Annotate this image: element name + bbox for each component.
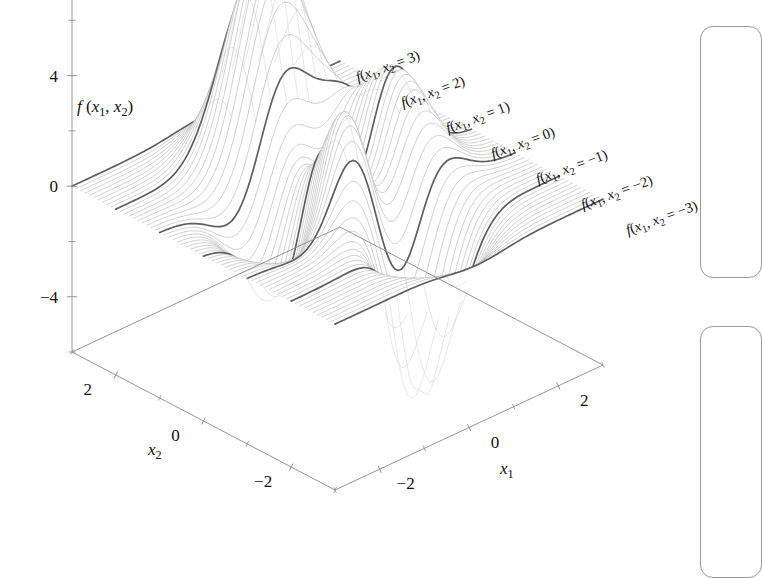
z-tick-label: −4 bbox=[40, 288, 59, 307]
right-panel-upper bbox=[700, 26, 762, 278]
z-axis-title: f (x1, x2) bbox=[77, 97, 133, 119]
z-tick-label: 4 bbox=[50, 67, 59, 86]
x2-tick-label: 2 bbox=[84, 380, 93, 399]
x1-axis-title: x1 bbox=[499, 459, 514, 481]
x2-axis-title: x2 bbox=[147, 440, 162, 462]
x1-tick-label: 2 bbox=[580, 391, 589, 410]
curve-label: f(x1, x2 = −3) bbox=[624, 197, 701, 240]
right-panel-lower bbox=[700, 326, 762, 578]
x1-tick-label: −2 bbox=[397, 474, 415, 493]
x2-tick-label: −2 bbox=[254, 472, 272, 491]
curve-label: f(x1, x2 = −2) bbox=[579, 172, 656, 215]
x1-tick-label: 0 bbox=[491, 433, 500, 452]
x2-tick-label: 0 bbox=[171, 426, 180, 445]
surface-mesh bbox=[72, 0, 603, 490]
curve-label: f(x1, x2 = 1) bbox=[444, 98, 513, 138]
z-tick-label: 0 bbox=[50, 177, 59, 196]
curve-label: f(x1, x2 = −1) bbox=[534, 146, 611, 189]
